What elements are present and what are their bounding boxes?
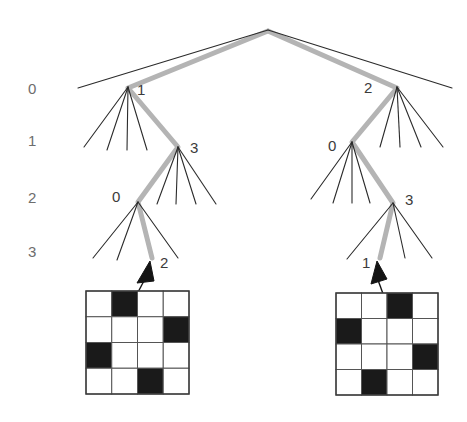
left-grid-cell-r0-c0 [86, 291, 112, 317]
tree-edges-group [78, 30, 452, 260]
right-level1-node-label: 0 [328, 137, 336, 154]
left-grid [86, 291, 189, 394]
left-grid-cell-r3-c1 [112, 368, 138, 394]
right-grid-cell-r2-c2 [387, 344, 413, 370]
right-level0-node-label: 2 [364, 79, 372, 96]
right-grid-cell-r3-c0 [336, 370, 362, 396]
right-grid-cell-r3-c3 [413, 370, 439, 396]
root-edge-right [268, 30, 452, 88]
right-grid-cell-r3-c1 [362, 370, 388, 396]
left-grid-cell-r3-c2 [138, 368, 164, 394]
right-grid-cell-r1-c1 [362, 319, 388, 345]
left-level0-node-label: 1 [137, 81, 145, 98]
right-grid-cell-r2-c3 [413, 344, 439, 370]
level-label-1: 1 [28, 132, 36, 149]
right-leaf-node-label: 1 [362, 254, 370, 271]
left-grid-cell-r3-c3 [163, 368, 189, 394]
grids-layer [86, 291, 438, 395]
left-grid-cell-r1-c3 [163, 317, 189, 343]
left-grid-cell-r1-c1 [112, 317, 138, 343]
left-grid-cell-r2-c3 [163, 343, 189, 369]
right-grid-cell-r2-c0 [336, 344, 362, 370]
left-grid-cell-r1-c0 [86, 317, 112, 343]
left-grid-cell-r0-c2 [138, 291, 164, 317]
left-grid-cell-r0-c3 [163, 291, 189, 317]
left-grid-cell-r3-c0 [86, 368, 112, 394]
right-grid-cell-r1-c3 [413, 319, 439, 345]
right-grid-cell-r1-c0 [336, 319, 362, 345]
right-grid-cell-r0-c3 [413, 293, 439, 319]
level-label-0: 0 [28, 80, 36, 97]
right-grid-cell-r3-c2 [387, 370, 413, 396]
left-grid-cell-r2-c0 [86, 343, 112, 369]
tree-diagram-canvas: 0 1 2 3 1 3 0 2 2 0 3 1 [0, 0, 467, 422]
left-level1-children [157, 147, 216, 204]
left-level1-node-label: 3 [190, 139, 198, 156]
left-level2-children [93, 202, 178, 260]
left-grid-cell-r1-c2 [138, 317, 164, 343]
right-level2-node-label: 3 [405, 191, 413, 208]
level-label-3: 3 [28, 243, 36, 260]
left-grid-cell-r0-c1 [112, 291, 138, 317]
right-grid-cell-r0-c1 [362, 293, 388, 319]
right-grid-cell-r0-c0 [336, 293, 362, 319]
root-edge-left [78, 30, 268, 88]
right-grid-cell-r2-c1 [362, 344, 388, 370]
right-grid-cell-r0-c2 [387, 293, 413, 319]
left-grid-cell-r2-c2 [138, 343, 164, 369]
left-leaf-node-label: 2 [160, 254, 168, 271]
level-label-2: 2 [28, 189, 36, 206]
left-grid-cell-r2-c1 [112, 343, 138, 369]
highlight-path-group [128, 31, 397, 258]
level-labels-group: 0 1 2 3 [28, 80, 36, 260]
right-grid-cell-r1-c2 [387, 319, 413, 345]
right-grid [336, 293, 438, 395]
quadtree-figure: 0 1 2 3 1 3 0 2 2 0 3 1 [0, 0, 467, 422]
left-level2-node-label: 0 [112, 188, 120, 205]
